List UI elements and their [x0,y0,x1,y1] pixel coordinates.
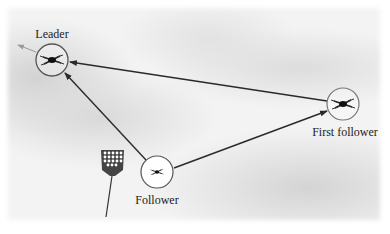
edge-first-follower-to-leader [70,62,327,101]
node-label-leader: Leader [35,27,68,41]
edge-follower-to-leader [65,73,146,160]
node-label-first-follower: First follower [312,125,378,139]
formation-diagram: Leader First follower Follower [0,0,390,234]
diagram-canvas: Leader First follower Follower [0,0,390,234]
node-follower: Follower [135,156,178,207]
leader-heading-arrow [18,45,36,52]
edge-follower-to-first-follower [174,111,327,168]
node-leader: Leader [35,27,68,76]
floodlight-tower-icon [101,150,124,217]
node-label-follower: Follower [135,193,178,207]
